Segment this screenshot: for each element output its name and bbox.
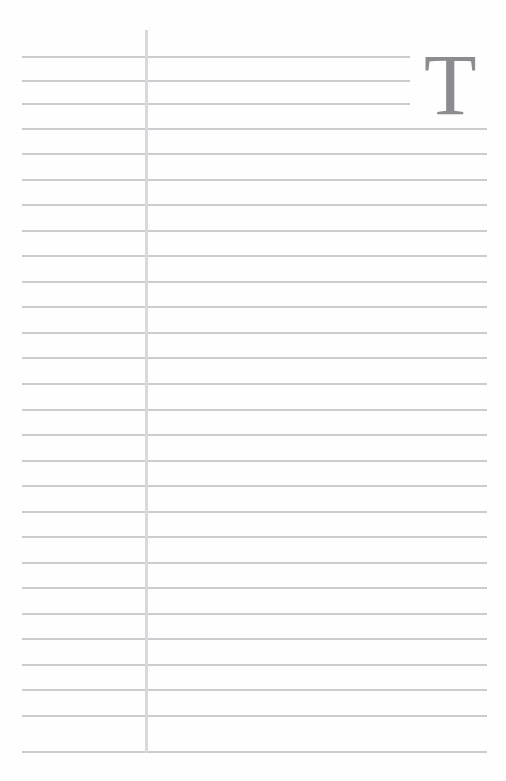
- rule-line: [22, 460, 487, 462]
- rule-line: [22, 689, 487, 691]
- rule-line: [22, 204, 487, 206]
- rule-line: [22, 56, 410, 58]
- rule-line: [22, 409, 487, 411]
- rule-line: [22, 536, 487, 538]
- rule-line: [22, 357, 487, 359]
- rule-line: [22, 230, 487, 232]
- rule-line: [22, 306, 487, 308]
- rule-line: [22, 80, 410, 82]
- rule-line: [22, 434, 487, 436]
- rule-line: [22, 715, 487, 717]
- rule-line: [22, 332, 487, 334]
- drop-cap-letter: T: [424, 42, 477, 128]
- rule-line: [22, 638, 487, 640]
- rule-line: [22, 128, 487, 130]
- rule-line: [22, 255, 487, 257]
- lined-page-canvas: T: [0, 0, 506, 781]
- rule-line: [22, 383, 487, 385]
- rule-line: [22, 511, 487, 513]
- rule-line: [22, 103, 410, 105]
- rule-line: [22, 281, 487, 283]
- rule-line: [22, 664, 487, 666]
- rule-line: [22, 562, 487, 564]
- rule-line: [22, 485, 487, 487]
- rule-line: [22, 179, 487, 181]
- rule-line: [22, 587, 487, 589]
- rule-line: [22, 613, 487, 615]
- rule-line: [22, 153, 487, 155]
- rule-line: [22, 751, 487, 753]
- margin-rule-line: [145, 30, 148, 753]
